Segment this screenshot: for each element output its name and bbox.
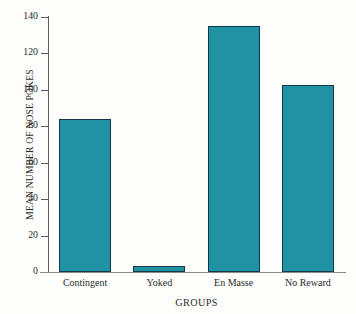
y-axis-tick-mark [41, 199, 48, 200]
plot-area [48, 17, 345, 272]
y-axis-tick-label: 140 [23, 10, 38, 21]
y-axis-tick: 20 [0, 236, 48, 237]
y-axis-tick-label: 20 [28, 229, 38, 240]
bar-category-label: Contingent [48, 277, 122, 288]
bar-slot [48, 17, 122, 272]
bar[interactable] [282, 85, 334, 272]
y-axis-tick-label: 100 [23, 83, 38, 94]
y-axis-tick-label: 40 [28, 192, 38, 203]
bar-slot [197, 17, 271, 272]
y-axis-tick: 140 [0, 17, 48, 18]
bar-category-label: No Reward [271, 277, 345, 288]
bar-category-label: Yoked [122, 277, 196, 288]
bar[interactable] [208, 26, 260, 272]
y-axis-tick: 120 [0, 53, 48, 54]
y-axis-tick-label: 0 [33, 265, 38, 276]
y-axis-tick-mark [41, 236, 48, 237]
bar[interactable] [59, 119, 111, 272]
y-axis-tick-label: 80 [28, 119, 38, 130]
x-axis-title: GROUPS [48, 297, 345, 308]
y-axis-tick-mark [41, 90, 48, 91]
y-axis-tick-label: 60 [28, 156, 38, 167]
bar-slot [271, 17, 345, 272]
y-axis-tick: 40 [0, 199, 48, 200]
y-axis-tick: 60 [0, 163, 48, 164]
y-axis-tick-mark [41, 17, 48, 18]
y-axis-tick-label: 120 [23, 46, 38, 57]
y-axis-tick: 80 [0, 126, 48, 127]
y-axis-tick-mark [41, 163, 48, 164]
bar-chart-figure: MEAN NUMBER OF NOSE POKES 02040608010012… [0, 0, 356, 314]
y-axis-tick-mark [41, 53, 48, 54]
x-axis-spine [40, 272, 346, 273]
bar-slot [122, 17, 196, 272]
y-axis-tick: 100 [0, 90, 48, 91]
y-axis-tick-mark [41, 126, 48, 127]
bar-category-label: En Masse [197, 277, 271, 288]
